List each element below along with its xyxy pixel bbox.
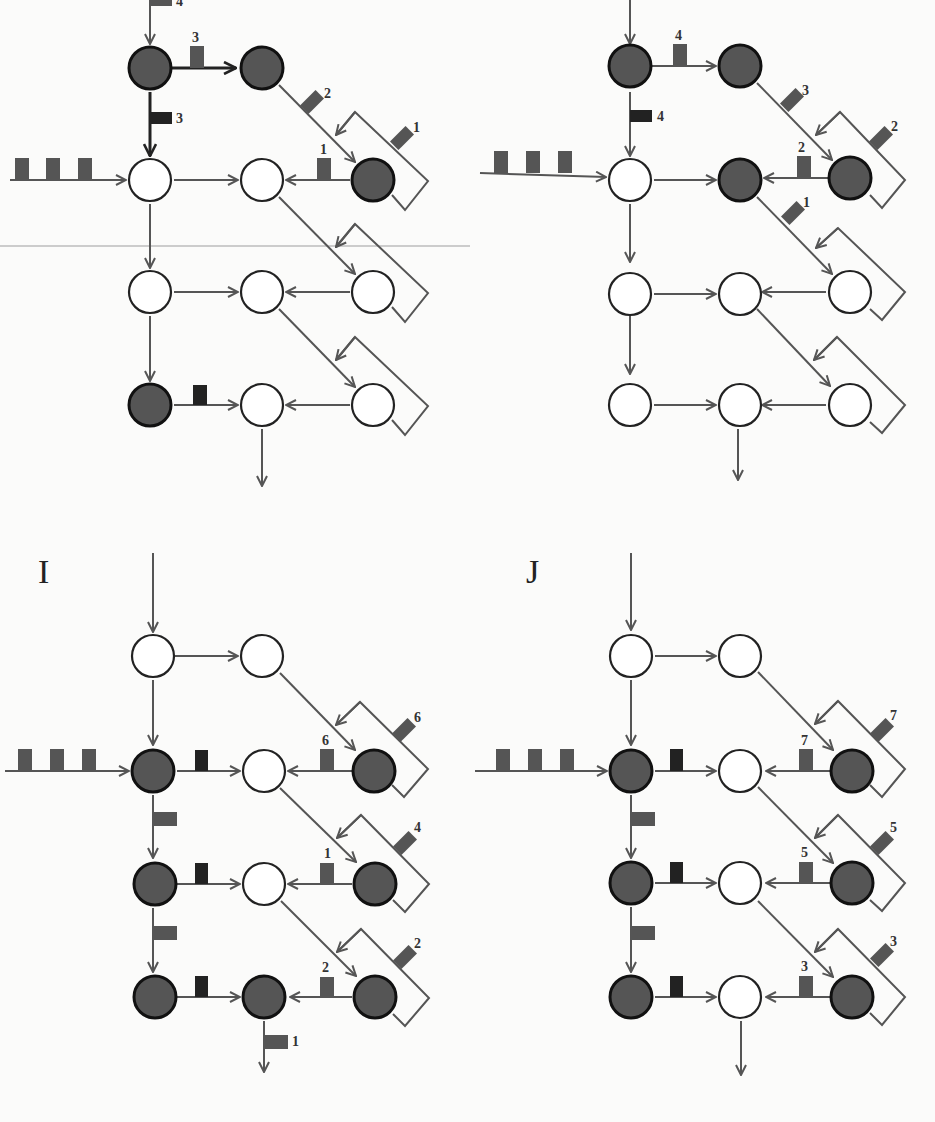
svg-text:6: 6 <box>414 710 421 725</box>
svg-text:5: 5 <box>890 820 897 835</box>
svg-text:2: 2 <box>414 936 421 951</box>
svg-text:1: 1 <box>413 120 420 135</box>
svg-text:1: 1 <box>803 195 810 210</box>
token <box>190 46 204 68</box>
node <box>129 47 171 89</box>
svg-text:2: 2 <box>324 86 331 101</box>
node <box>241 271 283 313</box>
token <box>150 112 172 124</box>
panel-i: 6 6 4 1 2 2 <box>5 553 429 1072</box>
node <box>352 159 394 201</box>
node <box>129 384 171 426</box>
svg-text:3: 3 <box>192 30 199 45</box>
network-diagram: 4 3 3 2 1 1 <box>0 0 935 1122</box>
panel-j: 7 7 5 5 3 3 <box>475 553 905 1075</box>
svg-text:6: 6 <box>322 733 329 748</box>
svg-text:2: 2 <box>322 960 329 975</box>
svg-text:1: 1 <box>320 142 327 157</box>
node <box>352 271 394 313</box>
svg-text:4: 4 <box>176 0 183 9</box>
svg-text:5: 5 <box>801 845 808 860</box>
svg-text:4: 4 <box>657 109 664 124</box>
svg-text:4: 4 <box>675 28 682 43</box>
svg-text:3: 3 <box>802 83 809 98</box>
node <box>129 159 171 201</box>
svg-text:4: 4 <box>414 820 421 835</box>
svg-text:3: 3 <box>176 111 183 126</box>
node <box>129 271 171 313</box>
svg-text:3: 3 <box>890 934 897 949</box>
node <box>241 159 283 201</box>
svg-text:7: 7 <box>890 708 897 723</box>
svg-text:1: 1 <box>324 846 331 861</box>
svg-text:2: 2 <box>891 119 898 134</box>
svg-text:1: 1 <box>292 1034 299 1049</box>
svg-text:7: 7 <box>801 733 808 748</box>
node <box>241 47 283 89</box>
panel-top-left: 4 3 3 2 1 1 <box>10 0 428 486</box>
svg-text:2: 2 <box>798 140 805 155</box>
token <box>150 0 172 6</box>
panel-top-right: 4 4 3 2 2 1 <box>480 0 905 480</box>
node <box>352 384 394 426</box>
node <box>241 384 283 426</box>
svg-text:3: 3 <box>801 959 808 974</box>
